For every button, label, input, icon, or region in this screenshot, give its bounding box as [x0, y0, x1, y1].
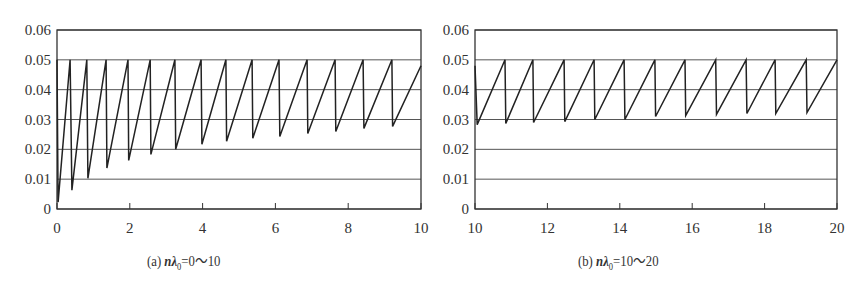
caption-b-var: n: [596, 253, 603, 269]
caption-a-var: n: [164, 253, 171, 269]
caption-a: (a) nλ0=0〜10: [147, 249, 220, 272]
y-tick-label: 0.01: [25, 171, 51, 187]
caption-b-range: =10〜20: [613, 253, 658, 269]
series-line-sawtooth: [475, 60, 837, 125]
y-tick-label: 0.05: [25, 52, 51, 68]
x-tick-label: 10: [414, 220, 429, 236]
y-tick-label: 0.05: [443, 52, 469, 68]
x-tick-label: 6: [272, 220, 280, 236]
x-tick-label: 12: [540, 220, 555, 236]
figure-caption-cutoff: [180, 290, 680, 298]
x-tick-label: 18: [757, 220, 772, 236]
series-line-sawtooth: [57, 60, 421, 202]
chart-b: 00.010.020.030.040.050.06101214161820: [443, 22, 845, 236]
caption-b-prefix: (b): [578, 253, 593, 269]
x-tick-label: 14: [612, 220, 628, 236]
x-tick-label: 10: [468, 220, 483, 236]
y-tick-label: 0.06: [25, 22, 52, 38]
y-tick-label: 0.04: [25, 82, 52, 98]
y-tick-label: 0.01: [443, 171, 469, 187]
x-tick-label: 4: [199, 220, 207, 236]
x-tick-label: 8: [344, 220, 352, 236]
x-tick-label: 20: [830, 220, 845, 236]
figure: 00.010.020.030.040.050.06024681000.010.0…: [0, 0, 861, 298]
x-tick-label: 0: [53, 220, 61, 236]
y-tick-label: 0.03: [443, 112, 469, 128]
x-tick-label: 16: [685, 220, 701, 236]
x-tick-label: 2: [126, 220, 134, 236]
y-tick-label: 0.02: [443, 141, 469, 157]
caption-a-range: =0〜10: [181, 253, 220, 269]
y-tick-label: 0: [44, 201, 52, 217]
caption-a-prefix: (a): [147, 253, 161, 269]
y-tick-label: 0.06: [443, 22, 470, 38]
caption-b: (b) nλ0=10〜20: [578, 249, 659, 272]
y-tick-label: 0.02: [25, 141, 51, 157]
chart-a: 00.010.020.030.040.050.060246810: [25, 22, 429, 236]
y-tick-label: 0: [462, 201, 470, 217]
chart-canvas: 00.010.020.030.040.050.06024681000.010.0…: [0, 0, 861, 298]
y-tick-label: 0.03: [25, 112, 51, 128]
y-tick-label: 0.04: [443, 82, 470, 98]
